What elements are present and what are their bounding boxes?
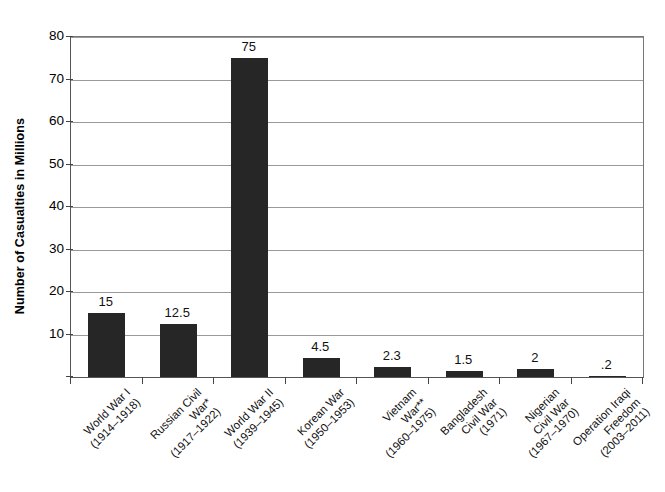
bar[interactable] <box>446 371 483 377</box>
y-axis-tick-mark <box>66 36 73 37</box>
bar-value-label: 12.5 <box>147 306 207 320</box>
x-axis-tick-mark <box>285 377 286 384</box>
x-axis-tick-mark <box>142 377 143 384</box>
x-axis-tick-mark <box>571 377 572 384</box>
bar-chart: Number of Casualties in Millions 1020304… <box>0 0 665 492</box>
y-axis-tick-mark <box>66 334 73 335</box>
y-axis-tick-mark <box>66 164 73 165</box>
y-axis-tick-label: 80 <box>34 29 64 43</box>
bar-value-label: 4.5 <box>290 340 350 354</box>
x-axis-tick-mark <box>499 377 500 384</box>
plot-area <box>70 36 644 378</box>
bar-value-label: 15 <box>76 295 136 309</box>
gridline <box>71 165 643 166</box>
y-axis-tick-label: 40 <box>34 199 64 213</box>
bar-value-label: 2 <box>505 351 565 365</box>
y-axis-tick-label: 70 <box>34 72 64 86</box>
y-axis-tick-mark <box>66 206 73 207</box>
bar[interactable] <box>517 369 554 378</box>
x-axis-tick-mark <box>213 377 214 384</box>
gridline <box>71 250 643 251</box>
bar[interactable] <box>231 58 268 377</box>
y-axis-tick-label: 10 <box>34 327 64 341</box>
gridline <box>71 37 643 38</box>
gridline <box>71 122 643 123</box>
x-axis-tick-mark-origin <box>70 377 71 384</box>
bar-value-label: 1.5 <box>433 353 493 367</box>
bar[interactable] <box>88 313 125 377</box>
y-axis-tick-mark <box>66 121 73 122</box>
y-axis-tick-mark <box>66 291 73 292</box>
y-axis-tick-labels: 1020304050607080 <box>30 36 64 376</box>
bar-value-label: 75 <box>219 40 279 54</box>
y-axis-tick-label: 20 <box>34 284 64 298</box>
y-axis-title: Number of Casualties in Millions <box>10 46 30 386</box>
y-axis-tick-mark <box>66 79 73 80</box>
y-axis-tick-mark <box>66 249 73 250</box>
gridline <box>71 80 643 81</box>
gridline <box>71 292 643 293</box>
x-axis-tick-mark <box>356 377 357 384</box>
y-axis-tick-label: 50 <box>34 157 64 171</box>
bar[interactable] <box>303 358 340 377</box>
bar[interactable] <box>374 367 411 377</box>
bar[interactable] <box>589 376 626 378</box>
bar-value-label: 2.3 <box>362 349 422 363</box>
x-axis-tick-mark <box>428 377 429 384</box>
gridline <box>71 207 643 208</box>
y-axis-tick-label: 60 <box>34 114 64 128</box>
bar-value-label: .2 <box>576 358 636 372</box>
bar[interactable] <box>160 324 197 377</box>
gridline <box>71 335 643 336</box>
y-axis-tick-label: 30 <box>34 242 64 256</box>
x-axis-tick-mark <box>642 377 643 384</box>
